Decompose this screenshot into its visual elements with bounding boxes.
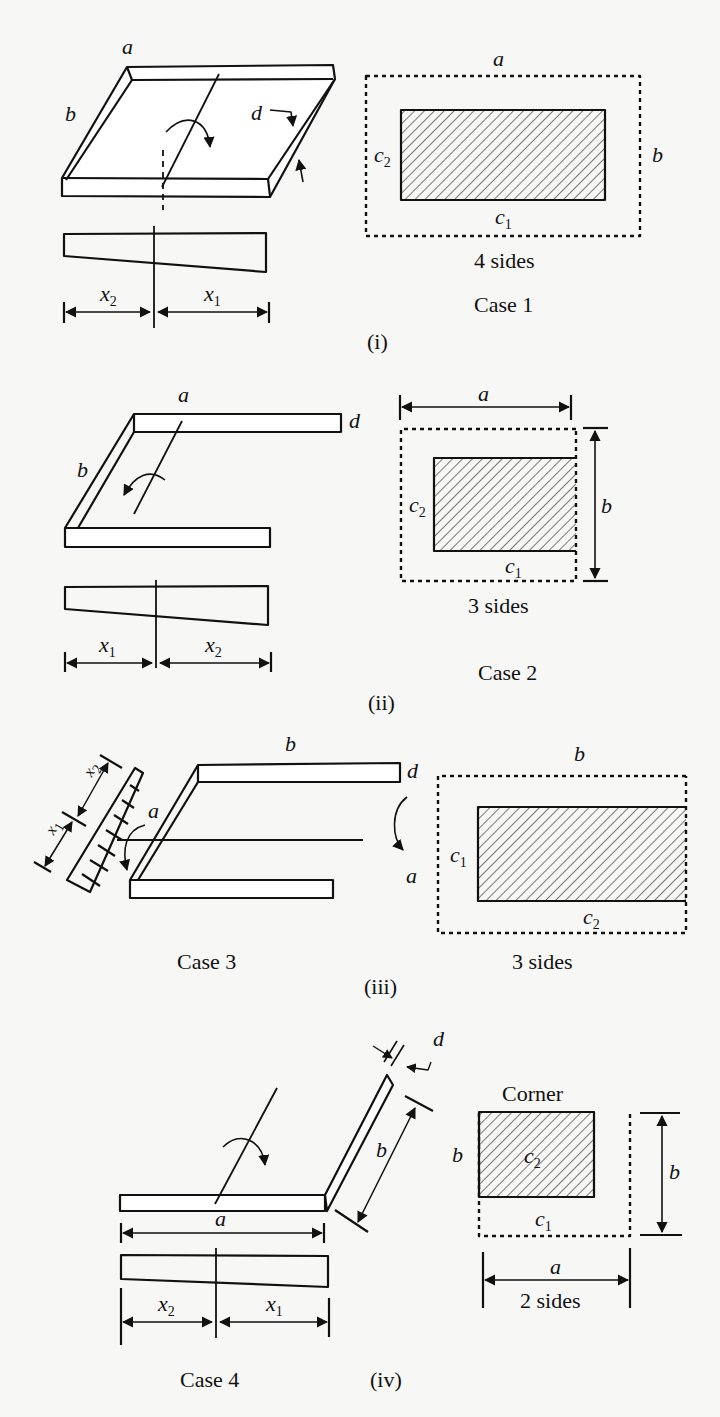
case4-plan-label-c2: c2 [524, 1145, 541, 1171]
case1-plan-label-b: b [652, 144, 663, 166]
case2-dist-label-x2: x2 [205, 634, 222, 660]
case3-iso-label-a: a [148, 800, 159, 822]
case1-sides-label: 4 sides [474, 250, 535, 272]
case1-plan-label-c2: c2 [374, 144, 391, 170]
case1-dist-label-x1: x1 [204, 283, 221, 309]
case1-case-label: Case 1 [474, 294, 533, 316]
case2-case-label: Case 2 [478, 662, 537, 684]
case4-iso-label-a: a [215, 1208, 226, 1230]
panel-ii-label: (ii) [368, 692, 395, 714]
case2-plan-label-a: a [478, 383, 489, 405]
case3-iso-label-d: d [407, 760, 418, 782]
case1-plan-label-a: a [493, 48, 504, 70]
panel-iii-label: (iii) [364, 976, 397, 998]
case1-plan-label-c1: c1 [495, 206, 512, 232]
case2-iso-label-d: d [349, 410, 360, 432]
case2-plan [400, 395, 608, 581]
case3-iso-slab [117, 763, 407, 898]
case3-iso-label-b: b [285, 733, 296, 755]
case1-stress-distribution [64, 226, 269, 328]
panel-iv-label: (iv) [370, 1369, 402, 1391]
case4-corner-label: Corner [502, 1083, 563, 1105]
case1-iso-label-d: d [251, 102, 262, 124]
case4-iso-label-b: b [376, 1139, 387, 1161]
case2-plan-label-b: b [601, 495, 612, 517]
case4-sides-label: 2 sides [520, 1290, 581, 1312]
case1-iso-label-b: b [65, 103, 76, 125]
case2-iso-label-a: a [178, 384, 189, 406]
figure-drawing [0, 0, 720, 1417]
case4-dist-label-x1: x1 [266, 1293, 283, 1319]
case2-plan-label-c1: c1 [505, 555, 522, 581]
case4-plan [479, 1112, 682, 1308]
case4-plan-label-b-right: b [669, 1161, 680, 1183]
case3-moment-label-a: a [406, 865, 417, 887]
case2-iso-slab [65, 414, 341, 547]
case1-iso-label-a: a [122, 36, 133, 58]
case4-iso-label-d: d [433, 1028, 444, 1050]
case2-iso-label-b: b [77, 459, 88, 481]
case4-dist-label-x2: x2 [158, 1293, 175, 1319]
case3-plan-label-c1: c1 [450, 844, 467, 870]
case4-plan-label-a: a [550, 1256, 561, 1278]
case3-plan [438, 776, 686, 933]
case4-plan-label-c1: c1 [535, 1208, 552, 1234]
case2-sides-label: 3 sides [468, 595, 529, 617]
case4-stress-distribution [121, 1248, 329, 1345]
case3-sides-label: 3 sides [512, 951, 573, 973]
case1-iso-slab [62, 65, 335, 210]
case3-case-label: Case 3 [177, 951, 236, 973]
case4-case-label: Case 4 [180, 1369, 239, 1391]
case3-plan-label-c2: c2 [583, 906, 600, 932]
case2-plan-label-c2: c2 [409, 494, 426, 520]
case2-stress-distribution [65, 580, 271, 672]
case2-dist-label-x1: x1 [99, 634, 116, 660]
panel-i-label: (i) [367, 331, 388, 353]
case3-plan-label-b: b [574, 743, 585, 765]
case1-dist-label-x2: x2 [100, 283, 117, 309]
case4-plan-label-b-left: b [452, 1144, 463, 1166]
